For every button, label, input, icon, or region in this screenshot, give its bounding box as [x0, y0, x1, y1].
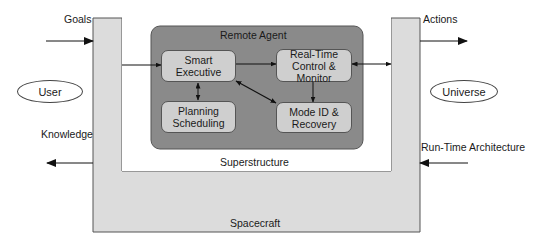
remote-agent-label: Remote Agent	[220, 29, 287, 41]
planning-scheduling-module[interactable]: PlanningScheduling	[161, 101, 236, 133]
real-time-control-line1: Real-Time	[290, 48, 338, 60]
mode-id-recovery-line1: Mode ID &	[289, 106, 339, 118]
actions-label: Actions	[423, 13, 457, 25]
runtime-architecture-label: Run-Time Architecture	[421, 141, 525, 153]
universe-entity[interactable]: Universe	[430, 80, 498, 103]
spacecraft-label: Spacecraft	[230, 217, 280, 229]
smart-executive-line2: Executive	[176, 66, 222, 78]
planning-scheduling-line2: Scheduling	[173, 117, 225, 129]
real-time-control-module[interactable]: Real-TimeControl &Monitor	[276, 49, 352, 82]
goals-label: Goals	[64, 13, 91, 25]
mode-id-recovery-line2: Recovery	[289, 118, 339, 130]
smart-executive-line1: Smart	[176, 54, 222, 66]
smart-executive-module[interactable]: SmartExecutive	[161, 50, 236, 82]
superstructure-label: Superstructure	[220, 156, 289, 168]
mode-id-recovery-module[interactable]: Mode ID &Recovery	[276, 102, 352, 133]
real-time-control-line2: Control &	[290, 60, 338, 72]
planning-scheduling-line1: Planning	[173, 105, 225, 117]
real-time-control-line3: Monitor	[290, 72, 338, 84]
user-entity[interactable]: User	[17, 80, 83, 103]
knowledge-label: Knowledge	[41, 128, 93, 140]
universe-label: Universe	[442, 86, 485, 98]
user-label: User	[38, 86, 61, 98]
